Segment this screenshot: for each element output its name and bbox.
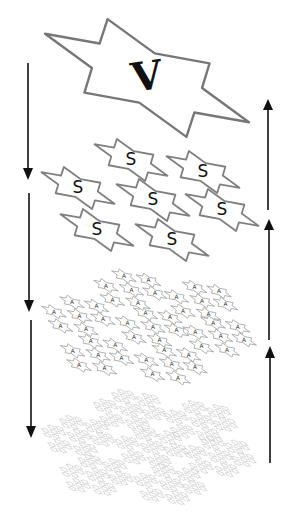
hexagram-star-icon (139, 418, 148, 423)
hexagram-star-icon (182, 468, 191, 473)
hexagram-star-icon (208, 412, 217, 417)
star-letter-label: A (157, 337, 161, 343)
hexagram-star-icon (81, 479, 90, 484)
hexagram-star-icon (176, 500, 185, 505)
star-letter-label: A (103, 365, 107, 371)
level-2-stars-S: SSSSSSS (42, 139, 259, 261)
hexagram-star-icon (174, 495, 183, 500)
hexagram-star-icon (167, 499, 176, 504)
hexagram-star-icon (73, 417, 82, 422)
hexagram-star-icon (119, 406, 128, 411)
hexagram-star-icon (71, 473, 80, 478)
hexagram-star-icon (108, 487, 117, 492)
hexagram-star-icon (163, 430, 172, 435)
hexagram-star-icon (102, 403, 111, 408)
hexagram-star-icon (184, 408, 193, 413)
hexagram-star-icon (187, 430, 196, 435)
star-letter-label: A (162, 347, 166, 353)
level-3-stars-A: AAAAAAAAAAAAAAAAAAAAAAAAAAAAAAAAAAAAAAAA… (42, 269, 257, 385)
hexagram-star-icon (214, 466, 223, 471)
hexagram-star-icon (104, 434, 113, 439)
hexagram-star-icon (43, 433, 52, 438)
star-letter-label: A (200, 343, 204, 349)
hexagram-star-icon (121, 411, 130, 416)
hexagram-star-icon (122, 398, 131, 403)
star-letter-label: A (101, 316, 105, 322)
hexagram-star-icon (94, 490, 103, 495)
hexagram-star-icon (209, 440, 218, 445)
left-down-arrow-2 (24, 193, 34, 312)
star-letter-label: A (110, 297, 114, 303)
hexagram-star-icon (117, 389, 126, 394)
hexagram-star-icon (92, 424, 101, 429)
left-down-arrow-1 (23, 63, 33, 180)
hexagram-star-icon (62, 440, 71, 445)
hexagram-star-icon (60, 467, 69, 472)
hexagram-star-icon (142, 478, 151, 483)
hexagram-star-icon (148, 492, 157, 497)
hexagram-star-icon (50, 429, 59, 434)
star-letter-label: A (219, 333, 223, 339)
hexagram-star-icon (41, 428, 50, 433)
right-up-arrow-1 (263, 99, 273, 210)
star-letter-label: A (84, 326, 88, 332)
hexagram-star-icon (73, 429, 82, 434)
star-letter-label: A (225, 347, 229, 353)
hexagram-star-icon (107, 438, 116, 443)
hexagram-star-icon (66, 464, 75, 469)
hexagram-star-icon (210, 429, 219, 434)
hexagram-star-icon (125, 403, 134, 408)
hexagram-star-icon (52, 434, 61, 439)
star-letter-label: A (146, 277, 150, 283)
hexagram-star-icon (184, 489, 193, 494)
hexagram-star-icon (153, 415, 162, 420)
hexagram-star-icon (149, 432, 158, 437)
star-letter-label: A (52, 309, 56, 315)
hexagram-star-icon (142, 448, 151, 453)
hexagram-star-icon (144, 398, 153, 403)
star-letter-label: A (151, 371, 155, 377)
hexagram-star-icon (215, 425, 224, 430)
hexagram-star-icon (156, 493, 165, 498)
hexagram-star-icon (72, 478, 81, 483)
hexagram-star-icon (135, 434, 144, 439)
hexagram-star-icon (162, 473, 171, 478)
hexagram-star-icon (231, 469, 240, 474)
hexagram-star-icon (101, 441, 110, 446)
hexagram-star-icon (108, 417, 117, 422)
hexagram-star-icon (199, 486, 208, 491)
hexagram-star-icon (199, 451, 208, 456)
hexagram-star-icon (75, 483, 84, 488)
hexagram-star-icon (192, 409, 201, 414)
hexagram-star-icon (153, 472, 162, 477)
hexagram-star-icon (151, 411, 160, 416)
hexagram-star-icon (68, 420, 77, 425)
hexagram-star-icon (180, 416, 189, 421)
hexagram-star-icon (202, 444, 211, 449)
hexagram-star-icon (151, 467, 160, 472)
star-letter-label: A (153, 290, 157, 296)
star-letter-label: A (71, 348, 75, 354)
hexagram-star-icon (220, 406, 229, 411)
hexagram-star-icon (188, 400, 197, 405)
hexagram-star-icon (108, 458, 117, 463)
hexagram-star-icon (184, 453, 193, 458)
hexaflake-diagram: V SSSSSSS AAAAAAAAAAAAAAAAAAAAAAAAAAAAAA… (0, 0, 294, 530)
star-letter-label: A (211, 320, 215, 326)
star-letter-label: A (181, 308, 185, 314)
hexagram-star-icon (190, 405, 199, 410)
hexagram-star-icon (127, 424, 136, 429)
hexagram-star-icon (142, 409, 151, 414)
hexagram-star-icon (66, 481, 75, 486)
hexagram-star-icon (150, 497, 159, 502)
hexagram-star-icon (113, 397, 122, 402)
hexagram-star-icon (99, 416, 108, 421)
hexagram-star-icon (59, 418, 68, 423)
hexagram-star-icon (240, 457, 249, 462)
hexagram-star-icon (61, 423, 70, 428)
hexagram-star-icon (109, 474, 118, 479)
hexagram-star-icon (100, 486, 109, 491)
hexagram-star-icon (134, 421, 143, 426)
hexagram-star-icon (94, 472, 103, 477)
level-4-stars (41, 389, 256, 505)
